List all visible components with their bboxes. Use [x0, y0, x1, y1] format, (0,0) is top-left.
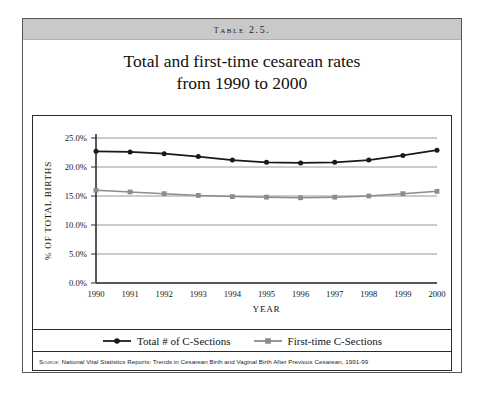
- x-tick-label-9: 1999: [394, 289, 411, 299]
- source-text: Source: National Vital Statistics Report…: [39, 358, 368, 365]
- data-point-0-3: [196, 154, 201, 159]
- x-tick-label-7: 1997: [326, 289, 344, 299]
- data-point-1-5: [264, 195, 269, 200]
- source-label: Source:: [39, 358, 60, 365]
- data-point-1-10: [435, 189, 440, 194]
- data-point-0-0: [94, 149, 99, 154]
- data-point-0-5: [264, 160, 269, 165]
- x-tick-label-1: 1991: [122, 289, 139, 299]
- data-point-0-7: [332, 160, 337, 165]
- x-tick-label-5: 1995: [258, 289, 275, 299]
- table-number-band: Table 2.5.: [23, 19, 461, 40]
- data-point-1-3: [196, 193, 201, 198]
- data-point-1-4: [230, 194, 235, 199]
- data-point-1-7: [332, 195, 337, 200]
- data-point-0-8: [366, 158, 371, 163]
- x-tick-label-8: 1998: [360, 289, 377, 299]
- legend-label-firsttime: First-time C-Sections: [288, 335, 382, 347]
- plot-area: 0.0%5.0%10.0%15.0%20.0%25.0%199019911992…: [32, 115, 452, 330]
- x-axis-title: YEAR: [253, 304, 281, 314]
- y-tick-label-3: 15.0%: [65, 191, 87, 201]
- x-tick-label-3: 1993: [190, 289, 207, 299]
- source-citation: National Vital Statistics Reports: Trend…: [61, 358, 368, 365]
- data-point-1-9: [401, 191, 406, 196]
- y-axis-title: % OF TOTAL BIRTHS: [43, 161, 53, 260]
- y-tick-label-1: 5.0%: [69, 249, 87, 259]
- legend-item-total: Total # of C-Sections: [102, 335, 231, 347]
- source-note: Source: National Vital Statistics Report…: [32, 352, 452, 371]
- legend-item-firsttime: First-time C-Sections: [253, 335, 382, 347]
- chart-legend: Total # of C-Sections First-time C-Secti…: [32, 330, 452, 352]
- data-point-1-8: [366, 194, 371, 199]
- data-point-1-6: [298, 195, 303, 200]
- y-tick-label-2: 10.0%: [65, 220, 87, 230]
- line-chart: 0.0%5.0%10.0%15.0%20.0%25.0%199019911992…: [33, 116, 451, 329]
- y-tick-label-0: 0.0%: [69, 278, 87, 288]
- data-point-1-2: [162, 191, 167, 196]
- data-point-0-10: [435, 148, 440, 153]
- data-point-1-1: [128, 190, 133, 195]
- chart-title-line-2: from 1990 to 2000: [33, 72, 451, 94]
- table-page: Table 2.5. Total and first-time cesarean…: [22, 18, 462, 373]
- data-point-0-2: [162, 151, 167, 156]
- legend-label-total: Total # of C-Sections: [137, 335, 231, 347]
- chart-title: Total and first-time cesarean rates from…: [23, 40, 461, 94]
- x-tick-label-6: 1996: [292, 289, 310, 299]
- data-point-0-6: [298, 160, 303, 165]
- y-tick-label-5: 25.0%: [65, 133, 87, 143]
- table-number-label: Table 2.5.: [214, 23, 271, 35]
- x-tick-label-10: 2000: [428, 289, 445, 299]
- x-tick-label-2: 1992: [156, 289, 173, 299]
- data-point-1-0: [94, 188, 99, 193]
- data-point-0-1: [128, 149, 133, 154]
- legend-marker-square-icon: [253, 336, 283, 346]
- data-point-0-4: [230, 158, 235, 163]
- x-tick-label-4: 1994: [224, 289, 242, 299]
- x-tick-label-0: 1990: [87, 289, 104, 299]
- y-tick-label-4: 20.0%: [65, 162, 87, 172]
- legend-marker-circle-icon: [102, 336, 132, 346]
- chart-title-line-1: Total and first-time cesarean rates: [124, 51, 361, 71]
- data-point-0-9: [400, 153, 405, 158]
